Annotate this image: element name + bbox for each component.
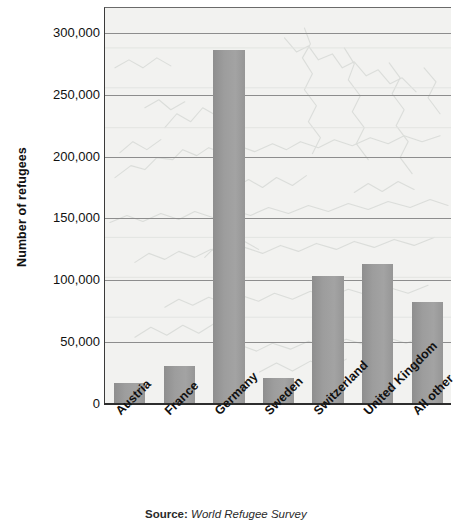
y-axis-tick-label: 250,000 [28,87,100,100]
gridline [105,95,451,96]
source-label: Source: [145,508,188,520]
gridline [105,342,451,343]
gridline [105,157,451,158]
gridline [105,280,451,281]
source-note: Source: World Refugee Survey [145,508,307,520]
gridline [105,218,451,219]
y-axis-tick-label: 100,000 [28,273,100,286]
source-value: World Refugee Survey [191,508,307,520]
y-axis-tick-label: 300,000 [28,25,100,38]
y-axis-tick-label: 50,000 [28,335,100,348]
y-axis-tick-label: 0 [28,397,100,410]
plot-area [104,7,451,403]
bar [213,50,244,403]
y-axis-tick-label: 200,000 [28,149,100,162]
y-axis-tick-label: 150,000 [28,211,100,224]
gridline [105,33,451,34]
y-axis-tick-labels: 050,000100,000150,000200,000250,000300,0… [24,0,100,420]
europe-map-watermark-icon [105,8,451,403]
